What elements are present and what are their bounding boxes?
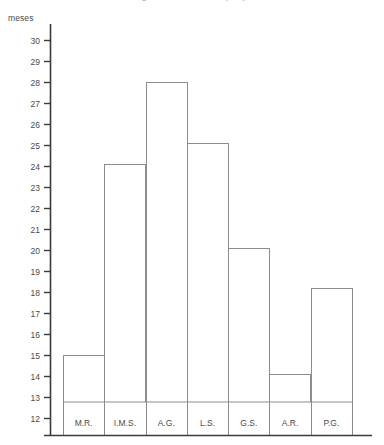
bar (188, 144, 229, 403)
bar (105, 165, 146, 403)
x-axis-category-label: A.G. (158, 418, 175, 428)
x-axis-category-label: L.S. (200, 418, 215, 428)
bar-chart-figure: Figura 3. Distribución por paciente mese… (0, 0, 384, 445)
y-axis-tick-label: 27 (31, 99, 41, 109)
y-axis-tick-label: 25 (31, 141, 41, 151)
y-axis-tick-label: 23 (31, 183, 41, 193)
bar (270, 375, 311, 403)
y-axis-tick-label: 20 (31, 246, 41, 256)
x-axis-category-label: I.M.S. (114, 418, 136, 428)
y-axis-tick-label: 13 (31, 393, 41, 403)
category-label-group: M.R.I.M.S.A.G.L.S.G.S.A.R.P.G. (64, 402, 353, 435)
bar (229, 249, 270, 403)
bar (147, 83, 188, 403)
y-axis-tick-label: 19 (31, 267, 41, 277)
y-axis-ticks: 30292827262524232221201918171615141312 (31, 36, 51, 424)
plot-area: 30292827262524232221201918171615141312 M… (0, 0, 384, 445)
y-axis-tick-label: 26 (31, 120, 41, 130)
bar (312, 289, 353, 403)
y-axis-tick-label: 12 (31, 414, 41, 424)
x-axis-category-label: P.G. (323, 418, 339, 428)
y-axis-tick-label: 15 (31, 351, 41, 361)
y-axis-tick-label: 30 (31, 36, 41, 46)
y-axis-tick-label: 29 (31, 57, 41, 67)
x-axis-category-label: A.R. (282, 418, 299, 428)
y-axis-tick-label: 24 (31, 162, 41, 172)
y-axis-tick-label: 22 (31, 204, 41, 214)
y-axis-tick-label: 17 (31, 309, 41, 319)
bar (64, 356, 105, 403)
y-axis-tick-label: 21 (31, 225, 41, 235)
y-axis-tick-label: 28 (31, 78, 41, 88)
x-axis-category-label: G.S. (240, 418, 257, 428)
bars-group (64, 83, 353, 403)
y-axis-tick-label: 16 (31, 330, 41, 340)
y-axis-tick-label: 14 (31, 372, 41, 382)
y-axis-tick-label: 18 (31, 288, 41, 298)
x-axis-category-label: M.R. (75, 418, 93, 428)
